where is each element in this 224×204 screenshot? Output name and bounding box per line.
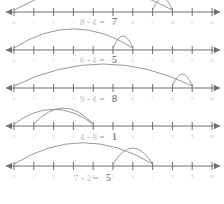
arc-forward (14, 143, 153, 164)
tick-label: 0 (13, 134, 16, 139)
axis-arrow-left (6, 47, 12, 53)
tick-label: 1 (33, 134, 36, 139)
axis-arrow-right (214, 85, 220, 91)
number-line: 012345678910 (0, 140, 224, 180)
equation-answer: 5 (101, 172, 112, 183)
tick-label: 2 (52, 134, 55, 139)
tick-label: 10 (210, 134, 216, 139)
equation-equals: = (92, 173, 102, 183)
tick-label: 7 (151, 134, 154, 139)
tick-label: 6 (132, 134, 135, 139)
tick-label: 5 (112, 174, 115, 179)
tick-label: 10 (210, 174, 216, 179)
tick-label: 1 (33, 174, 36, 179)
tick-label: 0 (13, 174, 16, 179)
axis-arrow-right (214, 9, 220, 15)
axis-arrow-left (6, 163, 12, 169)
tick-label: 9 (191, 174, 194, 179)
axis-arrow-right (214, 163, 220, 169)
axis-arrow-right (214, 123, 220, 129)
equation-operator: - (79, 173, 87, 183)
tick-label: 6 (132, 174, 135, 179)
arc-forward (14, 29, 133, 48)
tick-label: 2 (52, 174, 55, 179)
axis-arrow-left (6, 85, 12, 91)
arc-forward (14, 64, 192, 86)
tick-label: 7 (151, 174, 154, 179)
tick-label: 8 (171, 134, 174, 139)
tick-label: 8 (171, 174, 174, 179)
axis-arrow-left (6, 123, 12, 129)
axis-arrow-right (214, 47, 220, 53)
worksheet-sheet: 0123456789108-1=70123456789106-1=5012345… (0, 0, 224, 204)
arc-forward (14, 109, 93, 124)
equation: 7-2=5 (74, 172, 112, 183)
tick-label: 9 (191, 134, 194, 139)
problem-block: 012345678910 (0, 140, 224, 180)
tick-label: 3 (72, 134, 75, 139)
arc-backward (113, 148, 153, 164)
axis-arrow-left (6, 9, 12, 15)
